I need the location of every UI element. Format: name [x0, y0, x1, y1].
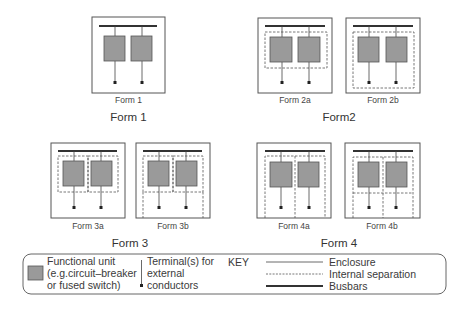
legend-functional-unit-line-2: (e.g.circuit–breaker	[47, 267, 137, 279]
diagram-caption: Form 2a	[279, 95, 311, 105]
terminal	[395, 81, 398, 84]
enclosure	[258, 18, 332, 93]
group-label: Form2	[322, 111, 355, 123]
legend-key: Functional unit (e.g.circuit–breaker or …	[23, 254, 446, 294]
diagram-form-2b: Form 2b	[346, 18, 420, 105]
diagram-form-1: Form 1	[92, 17, 165, 105]
functional-unit	[270, 162, 292, 187]
functional-unit	[131, 36, 152, 61]
internal-separation	[143, 192, 203, 218]
functional-unit	[386, 162, 407, 187]
diagram-caption: Form 2b	[367, 95, 399, 105]
diagram-form-4b: Form 4b	[345, 143, 420, 231]
terminal	[280, 206, 283, 209]
terminal	[308, 206, 311, 209]
diagram-form-2a: Form 2a	[258, 18, 332, 105]
terminal-swatch	[140, 284, 143, 287]
group-label: Form 1	[110, 111, 146, 123]
terminal	[114, 81, 117, 84]
functional-unit	[176, 161, 197, 186]
enclosure	[92, 17, 165, 93]
legend-busbar-label: Busbars	[329, 280, 368, 292]
diagram-form-3b: Form 3b	[136, 143, 210, 231]
enclosure	[346, 18, 420, 93]
functional-unit	[63, 161, 84, 186]
terminal	[368, 81, 371, 84]
functional-unit	[358, 162, 379, 187]
legend-separation-label: Internal separation	[329, 268, 416, 280]
enclosure	[345, 143, 420, 218]
functional-unit	[270, 37, 292, 62]
legend-title: KEY	[228, 256, 249, 268]
terminal	[141, 81, 144, 84]
terminal	[308, 81, 311, 84]
group-label: Form 4	[321, 237, 358, 249]
functional-unit-swatch	[28, 266, 43, 280]
functional-unit	[298, 37, 320, 62]
group-label: Form 3	[112, 237, 148, 249]
diagram-form-4a: Form 4a	[257, 143, 331, 231]
diagram-caption: Form 4b	[366, 221, 398, 231]
diagram-caption: Form 4a	[278, 221, 310, 231]
functional-unit	[358, 37, 379, 62]
terminal	[368, 206, 371, 209]
terminal	[281, 81, 284, 84]
functional-unit	[298, 162, 319, 187]
functional-unit	[104, 36, 125, 61]
legend-terminal-line-1: Terminal(s) for	[147, 255, 215, 267]
functional-unit	[148, 161, 169, 186]
forms-diagram: Form 1 Form 1 Form 2a Form 2b Form2	[0, 0, 468, 310]
functional-unit	[91, 161, 112, 186]
diagram-caption: Form 3b	[157, 221, 189, 231]
diagram-caption: Form 1	[115, 95, 142, 105]
terminal	[100, 206, 103, 209]
legend-terminal-line-2: external	[147, 267, 184, 279]
terminal	[73, 206, 76, 209]
terminal	[185, 206, 188, 209]
legend-enclosure-label: Enclosure	[329, 256, 376, 268]
legend-terminal-line-3: conductors	[147, 279, 198, 291]
functional-unit	[386, 37, 407, 62]
diagram-caption: Form 3a	[72, 221, 104, 231]
legend-functional-unit-line-3: or fused switch)	[47, 279, 121, 291]
diagram-form-3a: Form 3a	[51, 143, 125, 231]
legend-functional-unit-line-1: Functional unit	[47, 255, 115, 267]
terminal	[158, 206, 161, 209]
enclosure	[257, 143, 331, 218]
terminal	[395, 206, 398, 209]
